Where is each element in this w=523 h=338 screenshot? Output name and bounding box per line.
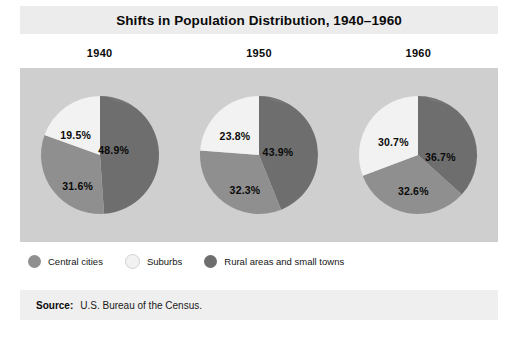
pie-chart: 43.9%32.3%23.8%: [197, 93, 321, 217]
pie-cell: 36.7%32.6%30.7%: [339, 68, 498, 242]
year-label: 1960: [405, 47, 431, 59]
slice-label: 19.5%: [60, 129, 91, 141]
pie-cell: 48.9%31.6%19.5%: [20, 68, 179, 242]
pie-slice[interactable]: [200, 96, 259, 155]
slice-label: 48.9%: [98, 144, 129, 156]
legend-item-suburbs[interactable]: Suburbs: [125, 254, 182, 269]
pie-chart: 36.7%32.6%30.7%: [356, 93, 480, 217]
chart-title-band: Shifts in Population Distribution, 1940–…: [20, 6, 498, 34]
legend-swatch-icon: [28, 255, 41, 268]
slice-label: 36.7%: [425, 151, 456, 163]
page-title: Shifts in Population Distribution, 1940–…: [116, 13, 402, 28]
pie-cell: 43.9%32.3%23.8%: [179, 68, 338, 242]
chart-figure: Shifts in Population Distribution, 1940–…: [0, 0, 523, 338]
year-cell: 1960: [339, 42, 498, 64]
slice-label: 43.9%: [263, 146, 294, 158]
pie-chart: 48.9%31.6%19.5%: [38, 93, 162, 217]
source-band: Source: U.S. Bureau of the Census.: [20, 290, 498, 320]
pie-svg: [197, 93, 321, 217]
source-label: Source:: [36, 300, 73, 311]
plot-panel: 48.9%31.6%19.5%43.9%32.3%23.8%36.7%32.6%…: [20, 68, 498, 242]
slice-label: 32.6%: [398, 185, 429, 197]
slice-label: 30.7%: [378, 136, 409, 148]
legend-label: Suburbs: [147, 256, 182, 267]
legend-item-rural_small_towns[interactable]: Rural areas and small towns: [204, 255, 344, 268]
slice-label: 23.8%: [220, 130, 251, 142]
year-cell: 1940: [20, 42, 179, 64]
chart-legend: Central citiesSuburbsRural areas and sma…: [28, 252, 366, 270]
pie-panels: 48.9%31.6%19.5%43.9%32.3%23.8%36.7%32.6%…: [20, 68, 498, 242]
slice-label: 31.6%: [62, 180, 93, 192]
panel-year-labels: 194019501960: [20, 42, 498, 64]
year-label: 1940: [87, 47, 113, 59]
legend-item-central_cities[interactable]: Central cities: [28, 255, 103, 268]
legend-label: Central cities: [48, 256, 103, 267]
year-label: 1950: [246, 47, 272, 59]
legend-swatch-icon: [204, 255, 217, 268]
source-text: U.S. Bureau of the Census.: [80, 300, 202, 311]
year-cell: 1950: [179, 42, 338, 64]
legend-swatch-icon: [125, 254, 140, 269]
legend-label: Rural areas and small towns: [224, 256, 344, 267]
slice-label: 32.3%: [230, 184, 261, 196]
pie-svg: [356, 93, 480, 217]
